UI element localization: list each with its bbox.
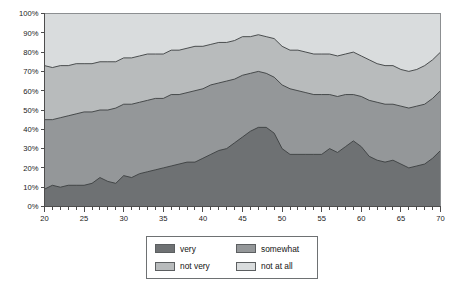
x-axis: 2025303540455055606570	[40, 207, 444, 223]
legend-label-not-at-all: not at all	[261, 262, 293, 270]
legend-swatch-somewhat	[236, 244, 256, 253]
legend-swatch-not-very	[155, 262, 175, 271]
y-tick-label: 0%	[28, 202, 39, 211]
legend-item-very: very	[151, 244, 232, 253]
x-tick-label: 20	[40, 214, 48, 223]
legend-label-very: very	[180, 245, 196, 253]
y-tick-label: 30%	[23, 144, 38, 153]
x-tick-label: 55	[317, 214, 325, 223]
legend-item-not-very: not very	[151, 262, 232, 271]
y-tick-label: 40%	[23, 125, 38, 134]
legend-swatch-very	[155, 244, 175, 253]
x-tick-label: 60	[357, 214, 365, 223]
stacked-area-chart: 0%10%20%30%40%50%60%70%80%90%100% 202530…	[0, 0, 454, 288]
y-tick-label: 100%	[19, 9, 39, 18]
series-areas	[45, 14, 441, 207]
y-tick-label: 60%	[23, 87, 38, 96]
legend-swatch-not-at-all	[236, 262, 256, 271]
legend-label-somewhat: somewhat	[261, 245, 299, 253]
legend-item-not-at-all: not at all	[232, 262, 313, 271]
x-tick-label: 30	[119, 214, 127, 223]
x-tick-label: 45	[238, 214, 246, 223]
x-tick-label: 25	[80, 214, 88, 223]
chart-plot-svg: 0%10%20%30%40%50%60%70%80%90%100% 202530…	[0, 0, 454, 228]
x-tick-label: 40	[199, 214, 207, 223]
x-tick-label: 50	[278, 214, 286, 223]
y-tick-label: 50%	[23, 106, 38, 115]
x-tick-label: 65	[397, 214, 405, 223]
x-tick-label: 35	[159, 214, 167, 223]
x-tick-label: 70	[436, 214, 444, 223]
chart-legend: very somewhat not very not at all	[146, 236, 318, 279]
y-tick-label: 90%	[23, 29, 38, 38]
y-tick-label: 80%	[23, 48, 38, 57]
y-tick-label: 10%	[23, 183, 38, 192]
y-axis: 0%10%20%30%40%50%60%70%80%90%100%	[19, 9, 44, 211]
legend-label-not-very: not very	[180, 262, 210, 270]
y-tick-label: 20%	[23, 164, 38, 173]
y-tick-label: 70%	[23, 67, 38, 76]
legend-item-somewhat: somewhat	[232, 244, 313, 253]
